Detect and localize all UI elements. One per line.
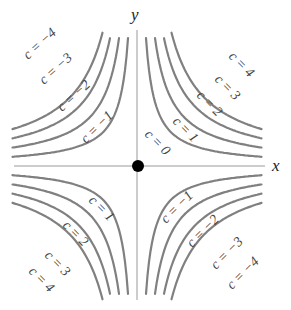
label-tr-1: c = 1 (170, 114, 202, 146)
label-br-m1: c = −1 (158, 188, 196, 226)
label-tr-2: c = 2 (194, 88, 226, 120)
x-axis-label: x (271, 156, 280, 175)
curve-labels: c = −4 c = −3 c = −2 c = −1 c = 4 c = 3 … (20, 25, 262, 295)
y-axis-label: y (129, 5, 139, 24)
label-bl-1: c = 1 (86, 193, 118, 225)
origin-point (132, 160, 144, 172)
label-tl-m1: c = −1 (78, 108, 116, 146)
level-curves-diagram: y x c = −4 c = −3 c = −2 c = −1 c = 4 c … (0, 0, 291, 310)
label-tr-4: c = 4 (226, 49, 258, 81)
label-tl-m4: c = −4 (20, 25, 59, 62)
hyperbola-curve (13, 203, 103, 299)
label-tl-m3: c = −3 (36, 50, 75, 87)
label-bl-2: c = 2 (60, 218, 92, 250)
